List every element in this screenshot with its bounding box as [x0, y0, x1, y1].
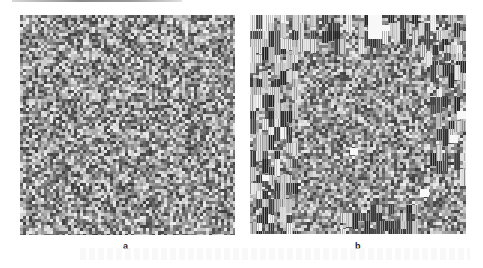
figure-panel-a — [20, 15, 235, 235]
top-rule — [12, 0, 182, 2]
noise-image-b — [250, 15, 466, 234]
figure-panel-b — [250, 15, 466, 234]
noise-image-a — [20, 15, 235, 235]
bleed-through-text — [80, 248, 470, 260]
